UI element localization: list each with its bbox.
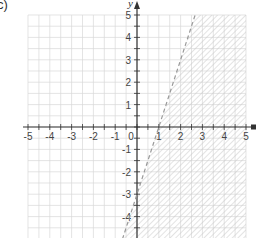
y-tick-label: 4 <box>125 32 131 43</box>
y-tick-label: 5 <box>125 10 131 21</box>
x-tick-label: 4 <box>221 131 227 142</box>
x-tick-label: -1 <box>111 131 120 142</box>
x-tick-label: 2 <box>178 131 184 142</box>
x-tick-label: 5 <box>243 131 249 142</box>
x-tick-label: 1 <box>156 131 162 142</box>
y-tick-label: 3 <box>125 55 131 66</box>
x-tick-label: 0 <box>128 131 134 142</box>
x-tick-label: -2 <box>89 131 98 142</box>
x-tick-label: -5 <box>24 131 33 142</box>
x-tick-label: -4 <box>45 131 54 142</box>
y-tick-label: -2 <box>122 167 131 178</box>
inequality-graph: -5-4-3-2-1012345-4-3-2-112345y <box>0 0 257 238</box>
y-tick-label: -1 <box>122 144 131 155</box>
y-axis-arrow-icon <box>134 1 140 9</box>
y-tick-label: 1 <box>125 100 131 111</box>
x-axis-arrow-icon <box>251 125 256 130</box>
x-tick-label: -3 <box>67 131 76 142</box>
x-tick-label: 3 <box>200 131 206 142</box>
y-axis-label: y <box>127 0 133 9</box>
y-tick-label: -3 <box>122 189 131 200</box>
y-tick-label: 2 <box>125 77 131 88</box>
